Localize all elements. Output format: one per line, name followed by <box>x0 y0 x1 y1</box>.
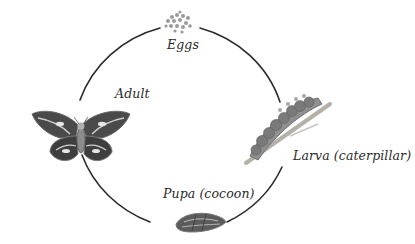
adult-moth-illustration <box>32 111 130 160</box>
arc-eggs-to-larva <box>200 28 280 102</box>
life-cycle-diagram: Eggs Larva (caterpillar) Pupa (cocoon) A… <box>0 0 415 244</box>
stage-label-larva: Larva (caterpillar) <box>293 148 411 163</box>
stage-label-pupa: Pupa (cocoon) <box>163 186 255 201</box>
eggs-illustration <box>164 10 191 33</box>
arc-pupa-to-adult <box>82 155 150 222</box>
stage-label-eggs: Eggs <box>167 37 199 52</box>
cycle-arcs <box>0 0 415 244</box>
pupa-cocoon-illustration <box>176 213 226 232</box>
stage-label-adult: Adult <box>115 86 150 101</box>
